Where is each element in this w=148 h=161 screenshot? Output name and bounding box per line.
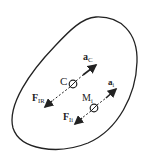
ac-arrow-icon [83, 65, 96, 75]
fii-dashed-line [82, 111, 91, 118]
fir-label: FIR [32, 92, 45, 104]
ac-label: aC [83, 51, 93, 64]
mi-label: Mi [82, 92, 93, 104]
fir-arrow-icon [45, 101, 52, 107]
ac-dashed-line [76, 75, 83, 81]
ai-label: ai [108, 77, 115, 88]
rigid-body-diagram: C aC FIR Mi ai FIi [0, 0, 148, 161]
fii-arrow-icon [75, 118, 82, 124]
center-of-mass-point [69, 80, 77, 88]
fir-dashed-line [52, 87, 70, 101]
point-c-label: C [60, 75, 67, 87]
mass-point-mi [90, 104, 98, 112]
ai-arrow-icon [106, 89, 116, 98]
fii-label: FIi [63, 111, 73, 123]
ai-dashed-line [97, 98, 106, 105]
